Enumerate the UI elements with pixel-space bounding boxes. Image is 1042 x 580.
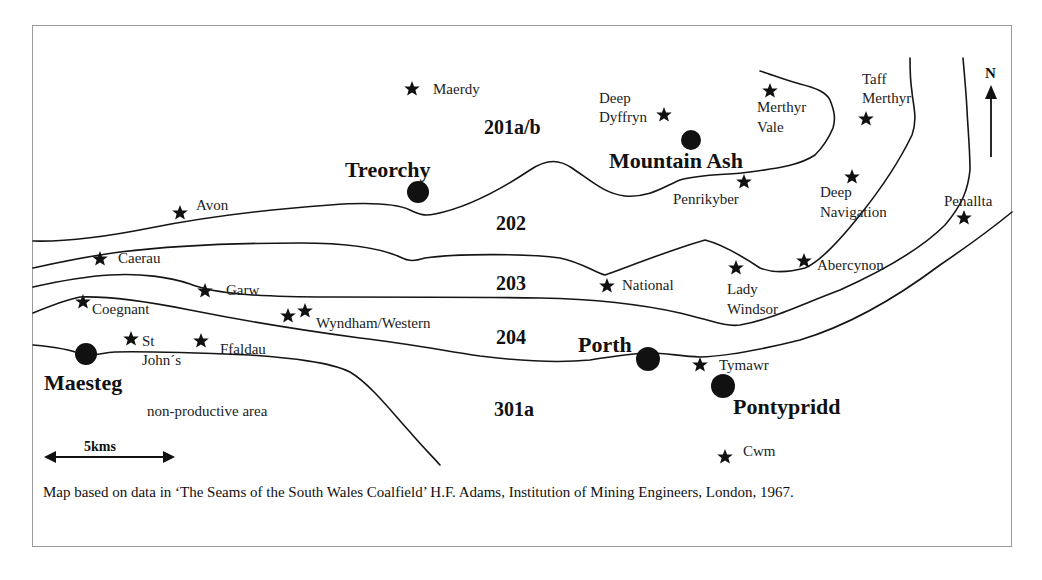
colliery-label: StJohn´s	[142, 333, 181, 368]
town-label: Maesteg	[44, 370, 122, 395]
seam-label-202: 202	[496, 212, 526, 234]
town-dot	[75, 343, 97, 365]
colliery-label: Abercynon	[817, 257, 884, 273]
star-icon	[656, 107, 672, 122]
towns: Treorchy Mountain Ash Maesteg Porth Pont…	[44, 130, 841, 419]
colliery-label: Maerdy	[433, 81, 480, 97]
seam-labels: 201a/b 202 203 204 301a	[484, 116, 541, 420]
star-icon	[280, 308, 296, 323]
colliery-label: Tymawr	[719, 357, 769, 373]
town-label: Treorchy	[345, 157, 431, 182]
colliery-cwm[interactable]: Cwm	[717, 443, 776, 464]
town-maesteg[interactable]: Maesteg	[44, 343, 122, 395]
coalfield-map: Treorchy Mountain Ash Maesteg Porth Pont…	[0, 0, 1042, 580]
star-icon	[736, 174, 752, 189]
colliery-label: Penallta	[944, 193, 993, 209]
scale-bar: 5kms	[44, 439, 175, 463]
colliery-deep-dyffryn[interactable]: DeepDyffryn	[599, 90, 672, 125]
star-icon	[956, 210, 972, 225]
colliery-label: National	[622, 277, 674, 293]
colliery-penallta[interactable]: Penallta	[944, 193, 993, 225]
north-arrow: N	[985, 65, 997, 157]
star-icon	[297, 303, 313, 318]
town-label: Mountain Ash	[609, 148, 743, 173]
colliery-merthyr-vale[interactable]: MerthyrVale	[757, 83, 806, 135]
star-icon	[844, 169, 860, 184]
town-porth[interactable]: Porth	[578, 332, 660, 371]
colliery-label: LadyWindsor	[727, 281, 778, 317]
seam-label-301a: 301a	[494, 398, 534, 420]
colliery-wyndham-western[interactable]: Wyndham/Western	[280, 303, 431, 331]
star-icon	[404, 81, 420, 96]
colliery-label: Coegnant	[92, 301, 150, 317]
colliery-label: TaffMerthyr	[862, 71, 911, 106]
colliery-label: Wyndham/Western	[316, 315, 431, 331]
colliery-label: Garw	[226, 282, 259, 298]
colliery-taff-merthyr[interactable]: TaffMerthyr	[858, 71, 911, 126]
star-icon	[599, 278, 615, 293]
star-icon	[123, 331, 139, 346]
star-icon	[193, 333, 209, 348]
colliery-label: Cwm	[743, 443, 776, 459]
star-icon	[197, 283, 213, 298]
town-dot	[711, 374, 735, 398]
town-treorchy[interactable]: Treorchy	[345, 157, 431, 203]
colliery-caerau[interactable]: Caerau	[92, 250, 161, 266]
colliery-deep-navigation[interactable]: DeepNavigation	[820, 169, 887, 220]
star-icon	[858, 111, 874, 126]
seam-label-204: 204	[496, 326, 526, 348]
town-mountain-ash[interactable]: Mountain Ash	[609, 130, 743, 173]
colliery-tymawr[interactable]: Tymawr	[692, 357, 769, 373]
star-icon	[692, 357, 708, 372]
scale-label: 5kms	[84, 439, 116, 454]
colliery-st-johns[interactable]: StJohn´s	[123, 331, 181, 368]
colliery-label: DeepNavigation	[820, 184, 887, 220]
seam-label-201ab: 201a/b	[484, 116, 541, 138]
scale-arrowhead-right	[163, 451, 175, 463]
non-productive-area-label: non-productive area	[147, 403, 268, 419]
colliery-label: DeepDyffryn	[599, 90, 648, 125]
seam-label-203: 203	[496, 272, 526, 294]
scale-arrowhead-left	[44, 451, 56, 463]
colliery-maerdy[interactable]: Maerdy	[404, 81, 480, 97]
north-label: N	[985, 65, 996, 81]
colliery-garw[interactable]: Garw	[197, 282, 259, 298]
town-label: Porth	[578, 332, 632, 357]
colliery-label: Avon	[196, 197, 229, 213]
star-icon	[172, 205, 188, 220]
colliery-abercynon[interactable]: Abercynon	[796, 253, 884, 273]
north-arrow-icon	[985, 85, 997, 99]
town-dot	[407, 181, 429, 203]
colliery-lady-windsor[interactable]: LadyWindsor	[727, 260, 778, 317]
colliery-label: Ffaldau	[220, 341, 266, 357]
colliery-national[interactable]: National	[599, 277, 673, 293]
star-icon	[762, 83, 778, 98]
colliery-label: Penrikyber	[673, 191, 739, 207]
town-label: Pontypridd	[733, 394, 841, 419]
town-pontypridd[interactable]: Pontypridd	[711, 374, 841, 419]
town-dot	[636, 347, 660, 371]
colliery-label: Caerau	[118, 250, 161, 266]
map-caption: Map based on data in ‘The Seams of the S…	[43, 484, 794, 500]
town-dot	[681, 130, 701, 150]
colliery-label: MerthyrVale	[757, 99, 806, 135]
star-icon	[717, 449, 733, 464]
star-icon	[92, 251, 108, 266]
star-icon	[728, 260, 744, 275]
